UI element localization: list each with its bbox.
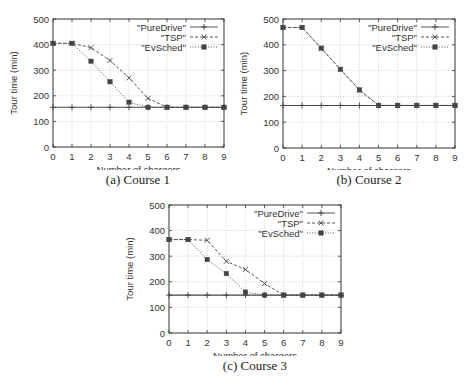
legend: "PureDrive""TSP""EvSched"	[254, 208, 335, 239]
axis-ticks: 01234567890100200300400500	[33, 14, 227, 163]
legend: "PureDrive""TSP""EvSched"	[368, 22, 449, 53]
chart-course-3: 01234567890100200300400500Number of char…	[116, 186, 356, 356]
x-axis-label: Number of chargers	[327, 165, 411, 170]
axis-ticks: 01234567890100200300400500	[149, 200, 344, 349]
y-tick-label: 500	[263, 14, 279, 25]
legend: "PureDrive""TSP""EvSched"	[137, 22, 218, 53]
y-tick-label: 300	[263, 65, 279, 76]
series-evsched	[281, 25, 457, 107]
y-tick-label: 0	[160, 328, 165, 339]
grid	[53, 19, 224, 147]
y-tick-label: 400	[33, 39, 49, 50]
x-tick-label: 6	[281, 337, 286, 348]
y-axis-label: Tour time (min)	[238, 52, 249, 115]
y-tick-label: 100	[149, 302, 165, 313]
y-tick-label: 0	[274, 143, 279, 154]
x-tick-label: 5	[145, 151, 150, 162]
y-axis-label: Tour time (min)	[124, 237, 135, 300]
x-tick-label: 9	[452, 152, 457, 163]
x-tick-label: 1	[299, 152, 304, 163]
series-tsp	[167, 237, 344, 298]
x-tick-label: 2	[205, 337, 210, 348]
y-tick-label: 100	[33, 116, 49, 127]
x-tick-label: 7	[414, 152, 419, 163]
x-tick-label: 1	[185, 337, 190, 348]
x-tick-label: 9	[221, 151, 226, 162]
x-tick-label: 7	[183, 151, 188, 162]
x-tick-label: 8	[202, 151, 207, 162]
x-axis-label: Number of chargers	[213, 350, 297, 356]
x-tick-label: 2	[88, 151, 93, 162]
x-tick-label: 7	[300, 337, 305, 348]
x-tick-label: 5	[262, 337, 267, 348]
grid	[283, 19, 455, 148]
plot-frame	[53, 19, 224, 147]
series-tsp	[281, 25, 458, 108]
y-tick-label: 200	[149, 276, 165, 287]
y-tick-label: 400	[263, 39, 279, 50]
x-tick-label: 9	[338, 337, 343, 348]
y-tick-label: 200	[263, 91, 279, 102]
x-axis-label: Number of chargers	[97, 164, 181, 170]
x-tick-label: 5	[376, 152, 381, 163]
series-evsched	[167, 237, 343, 297]
x-tick-label: 0	[280, 152, 285, 163]
y-tick-label: 100	[263, 117, 279, 128]
y-axis-label: Tour time (min)	[8, 51, 19, 114]
legend-label: "EvSched"	[258, 228, 303, 239]
x-tick-label: 2	[319, 152, 324, 163]
series-evsched	[51, 41, 226, 109]
x-tick-label: 8	[433, 152, 438, 163]
x-tick-label: 0	[166, 337, 171, 348]
chart-course-2: 01234567890100200300400500Number of char…	[230, 0, 472, 170]
y-tick-label: 500	[33, 14, 49, 25]
plot-frame	[169, 205, 341, 333]
x-tick-label: 0	[50, 151, 55, 162]
series-puredrive	[50, 104, 227, 110]
x-tick-label: 8	[319, 337, 324, 348]
y-tick-label: 300	[149, 251, 165, 262]
y-tick-label: 0	[44, 142, 49, 153]
y-tick-label: 300	[33, 65, 49, 76]
caption-course-3: (c) Course 3	[223, 358, 287, 374]
series-tsp	[51, 41, 227, 110]
x-tick-label: 4	[357, 152, 362, 163]
legend-label: "EvSched"	[141, 42, 186, 53]
y-tick-label: 400	[149, 225, 165, 236]
x-tick-label: 4	[243, 337, 248, 348]
y-tick-label: 500	[149, 200, 165, 211]
plot-frame	[283, 19, 455, 148]
x-tick-label: 3	[224, 337, 229, 348]
chart-course-1: 01234567890100200300400500Number of char…	[0, 0, 236, 170]
legend-label: "EvSched"	[372, 42, 417, 53]
x-tick-label: 3	[338, 152, 343, 163]
x-tick-label: 3	[107, 151, 112, 162]
grid	[169, 205, 341, 333]
x-tick-label: 1	[69, 151, 74, 162]
x-tick-label: 6	[164, 151, 169, 162]
x-tick-label: 6	[395, 152, 400, 163]
y-tick-label: 200	[33, 90, 49, 101]
x-tick-label: 4	[126, 151, 131, 162]
